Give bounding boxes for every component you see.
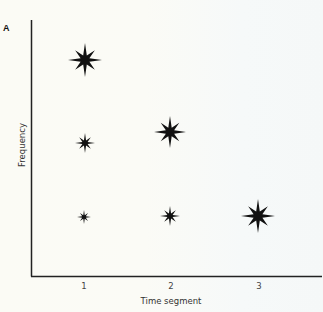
star-marker-icon	[75, 133, 95, 153]
star-marker-icon	[77, 210, 91, 224]
chart-figure: A Frequency 1 2 3 Time segment	[0, 0, 323, 312]
x-tick-1: 1	[81, 281, 86, 291]
plot-area	[0, 0, 323, 312]
star-marker-icon	[160, 206, 180, 226]
x-tick-2: 2	[168, 281, 173, 291]
x-tick-3: 3	[256, 281, 261, 291]
x-axis-label: Time segment	[141, 296, 202, 306]
star-marker-icon	[241, 199, 275, 233]
star-marker-icon	[68, 43, 102, 77]
data-markers	[68, 43, 275, 233]
star-marker-icon	[154, 116, 186, 148]
